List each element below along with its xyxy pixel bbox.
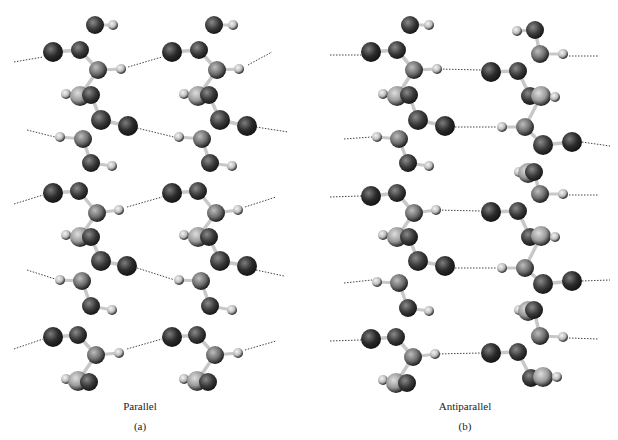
carbon-atom	[69, 326, 87, 344]
oxygen-atom	[361, 42, 381, 62]
oxygen-atom	[562, 271, 582, 291]
carbon-atom	[86, 16, 104, 34]
hydrogen-atom	[227, 305, 237, 315]
nitrogen-atom	[516, 118, 534, 136]
antiparallel-atoms	[361, 16, 582, 393]
carbon-atom	[91, 251, 111, 271]
hydrogen-atom	[228, 20, 238, 30]
hydrogen-bond	[245, 197, 276, 207]
oxygen-atom	[162, 327, 182, 347]
hydrogen-bond	[127, 197, 162, 207]
oxygen-atom	[237, 116, 257, 136]
oxygen-atom	[43, 42, 63, 62]
hydrogen-atom	[179, 89, 189, 99]
panel-a-title: Parallel	[80, 400, 200, 412]
carbon-atom	[80, 373, 98, 391]
oxygen-atom	[435, 116, 455, 136]
nitrogen-atom	[531, 327, 549, 345]
side-chain-atom	[531, 226, 551, 246]
carbon-atom	[210, 251, 230, 271]
oxygen-atom	[43, 327, 63, 347]
carbon-atom	[509, 62, 527, 80]
carbon-atom	[509, 343, 527, 361]
hydrogen-atom	[107, 161, 117, 171]
hydrogen-bond	[137, 128, 178, 138]
hydrogen-atom	[107, 305, 117, 315]
hydrogen-atom	[108, 20, 118, 30]
carbon-atom	[399, 154, 417, 172]
nitrogen-atom	[207, 204, 225, 222]
nitrogen-atom	[74, 130, 92, 148]
hydrogen-atom	[61, 89, 71, 99]
oxygen-atom	[43, 183, 63, 203]
hydrogen-bond	[245, 341, 276, 350]
parallel-atoms	[43, 16, 257, 391]
side-chain-atom	[531, 86, 551, 106]
hydrogen-bond	[248, 52, 272, 65]
oxygen-atom	[481, 202, 501, 222]
hydrogen-bond	[436, 353, 481, 354]
hydrogen-atom	[378, 89, 388, 99]
hydrogen-bond	[14, 57, 43, 62]
nitrogen-atom	[405, 61, 423, 79]
side-chain-atom	[533, 367, 553, 387]
hydrogen-atom	[372, 277, 382, 287]
hydrogen-bond	[344, 137, 372, 139]
hydrogen-atom	[233, 348, 243, 358]
carbon-atom	[388, 41, 406, 59]
antiparallel-sheet-panel	[330, 16, 610, 393]
nitrogen-atom	[390, 130, 408, 148]
carbon-atom	[533, 135, 553, 155]
nitrogen-atom	[73, 272, 91, 290]
hydrogen-bond	[14, 195, 43, 204]
carbon-atom	[91, 110, 111, 130]
carbon-atom	[82, 228, 100, 246]
hydrogen-bond	[344, 280, 372, 283]
hydrogen-atom	[114, 205, 124, 215]
carbon-atom	[398, 374, 416, 392]
nitrogen-atom	[206, 346, 224, 364]
carbon-atom	[200, 228, 218, 246]
nitrogen-atom	[390, 274, 408, 292]
hydrogen-bond	[128, 57, 162, 67]
oxygen-atom	[117, 256, 137, 276]
hydrogen-atom	[512, 26, 522, 36]
hydrogen-atom	[552, 372, 562, 382]
oxygen-atom	[361, 186, 381, 206]
hydrogen-atom	[378, 230, 388, 240]
hydrogen-atom	[372, 132, 382, 142]
hydrogen-atom	[430, 349, 440, 359]
hydrogen-bond	[330, 196, 361, 197]
carbon-atom	[189, 182, 207, 200]
nitrogen-atom	[405, 204, 423, 222]
carbon-atom	[82, 86, 100, 104]
hydrogen-atom	[174, 275, 184, 285]
hydrogen-bond	[14, 339, 43, 349]
carbon-atom	[205, 16, 223, 34]
hydrogen-bond	[582, 280, 610, 281]
hydrogen-atom	[497, 263, 507, 273]
carbon-atom	[200, 86, 218, 104]
hydrogen-atom	[61, 230, 71, 240]
nitrogen-atom	[87, 346, 105, 364]
hydrogen-atom	[179, 230, 189, 240]
carbon-atom	[387, 328, 405, 346]
oxygen-atom	[237, 256, 257, 276]
hydrogen-bond	[127, 339, 162, 349]
oxygen-atom	[162, 183, 182, 203]
carbon-atom	[201, 154, 219, 172]
carbon-atom	[201, 297, 219, 315]
hydrogen-bond	[330, 340, 361, 341]
hydrogen-atom	[431, 205, 441, 215]
oxygen-atom	[118, 116, 138, 136]
nitrogen-atom	[404, 348, 422, 366]
oxygen-atom	[562, 132, 582, 152]
hydrogen-atom	[424, 20, 434, 30]
hydrogen-atom	[116, 64, 126, 74]
carbon-atom	[408, 110, 428, 130]
hydrogen-atom	[424, 306, 434, 316]
oxygen-atom	[435, 256, 455, 276]
carbon-atom	[82, 154, 100, 172]
nitrogen-atom	[88, 204, 106, 222]
hydrogen-atom	[558, 332, 568, 342]
